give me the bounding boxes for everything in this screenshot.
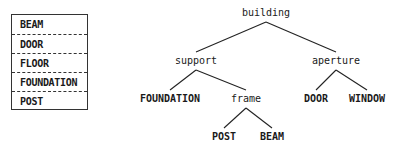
tree-node-building: building [242, 7, 290, 18]
tree-node-frame: frame [231, 93, 261, 104]
tree-node-door: DOOR [304, 93, 329, 104]
tree-edge-support-foundation [170, 70, 196, 90]
tree-node-post: POST [212, 131, 236, 142]
tree-edge-frame-beam [246, 108, 272, 128]
tree-edge-support-frame [196, 70, 246, 90]
tree-node-support: support [175, 55, 217, 66]
tree-node-window: WINDOW [349, 93, 386, 104]
tree-edge-aperture-window [336, 70, 367, 90]
tree-edge-building-support [196, 22, 266, 52]
tree-edge-frame-post [224, 108, 246, 128]
tree-edge-aperture-door [316, 70, 336, 90]
tree-node-beam: BEAM [260, 131, 284, 142]
tree-edge-building-aperture [266, 22, 336, 52]
tree-node-aperture: aperture [312, 55, 360, 66]
tree-node-foundation: FOUNDATION [140, 93, 200, 104]
hierarchy-tree: buildingsupportapertureFOUNDATIONframeDO… [0, 0, 396, 147]
